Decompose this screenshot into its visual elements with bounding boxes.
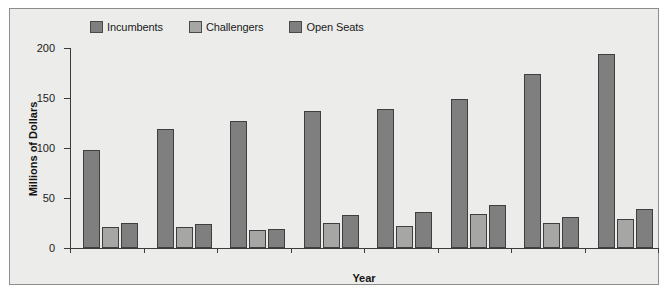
bar bbox=[323, 223, 340, 248]
bar bbox=[121, 223, 138, 248]
legend-label-open-seats: Open Seats bbox=[306, 21, 363, 33]
y-axis-tick-label: 50 bbox=[43, 192, 55, 204]
bar bbox=[489, 205, 506, 248]
y-axis-tick: 50 bbox=[64, 198, 71, 199]
y-axis-tick: 200 bbox=[64, 48, 71, 49]
bar bbox=[176, 227, 193, 248]
x-axis-tick bbox=[364, 248, 365, 253]
x-axis-tick bbox=[438, 248, 439, 253]
bar bbox=[543, 223, 560, 248]
bar bbox=[562, 217, 579, 248]
bar bbox=[195, 224, 212, 248]
legend-item-challengers: Challengers bbox=[189, 21, 264, 33]
y-axis-tick: 150 bbox=[64, 98, 71, 99]
x-axis-tick bbox=[70, 248, 71, 253]
y-axis-tick-label: 0 bbox=[49, 242, 55, 254]
bar bbox=[377, 109, 394, 248]
bar bbox=[83, 150, 100, 248]
plot-frame: Incumbents Challengers Open Seats Millio… bbox=[9, 8, 659, 285]
bar bbox=[268, 229, 285, 248]
bar bbox=[304, 111, 321, 248]
bar bbox=[524, 74, 541, 248]
legend-item-open-seats: Open Seats bbox=[289, 21, 363, 33]
bar bbox=[451, 99, 468, 248]
y-axis-tick-label: 150 bbox=[37, 92, 55, 104]
bar bbox=[157, 129, 174, 248]
x-axis-title: Year bbox=[70, 272, 658, 284]
legend-item-incumbents: Incumbents bbox=[90, 21, 163, 33]
x-axis-tick bbox=[511, 248, 512, 253]
bar bbox=[102, 227, 119, 248]
top-caption bbox=[8, 0, 648, 6]
y-axis-tick-label: 100 bbox=[37, 142, 55, 154]
x-axis-tick bbox=[585, 248, 586, 253]
y-axis-tick: 100 bbox=[64, 148, 71, 149]
legend-label-incumbents: Incumbents bbox=[107, 21, 163, 33]
x-axis-tick bbox=[658, 248, 659, 253]
bar bbox=[342, 215, 359, 248]
x-axis-tick bbox=[291, 248, 292, 253]
bar bbox=[470, 214, 487, 248]
legend-label-challengers: Challengers bbox=[206, 21, 264, 33]
legend-swatch-open-seats bbox=[289, 21, 302, 33]
bar bbox=[230, 121, 247, 248]
bar bbox=[598, 54, 615, 248]
figure: Incumbents Challengers Open Seats Millio… bbox=[0, 0, 669, 291]
legend-swatch-challengers bbox=[189, 21, 202, 33]
bar bbox=[636, 209, 653, 248]
chart-legend: Incumbents Challengers Open Seats bbox=[90, 18, 364, 36]
y-axis-tick-label: 200 bbox=[37, 42, 55, 54]
bar bbox=[617, 219, 634, 248]
bar bbox=[249, 230, 266, 248]
x-axis-tick bbox=[144, 248, 145, 253]
bar bbox=[396, 226, 413, 248]
bar bbox=[415, 212, 432, 248]
x-axis-tick bbox=[217, 248, 218, 253]
legend-swatch-incumbents bbox=[90, 21, 103, 33]
plot-area: 0501001502001985–19861987–19881989–19901… bbox=[70, 48, 658, 249]
